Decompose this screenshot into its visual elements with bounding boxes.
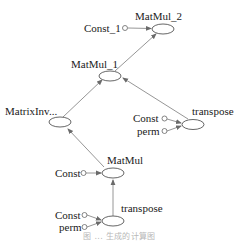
node-transpose-bottom[interactable] — [102, 216, 124, 226]
label-transpose-top: transpose — [192, 105, 234, 117]
computation-graph — [0, 0, 239, 245]
edge-matmul-matrixinv — [68, 129, 104, 167]
label-matmul-2: MatMul_2 — [135, 10, 182, 22]
label-matmul-1: MatMul_1 — [71, 58, 118, 70]
node-matmul[interactable] — [102, 168, 124, 178]
node-perm-bottom[interactable] — [82, 225, 87, 230]
node-const-top[interactable] — [162, 116, 167, 121]
node-matmul-2[interactable] — [152, 24, 174, 34]
label-transpose-bottom: transpose — [121, 202, 163, 214]
node-const-bottom[interactable] — [82, 213, 87, 218]
edge-matrixinv-matmul1 — [63, 80, 102, 117]
label-matrixinv: MatrixInv... — [5, 105, 57, 117]
node-const-mid[interactable] — [81, 171, 86, 176]
edge-consttop-transposetop — [167, 119, 181, 123]
node-matrixinv[interactable] — [49, 117, 71, 127]
label-perm-top: perm — [137, 125, 160, 137]
node-perm-top[interactable] — [162, 129, 167, 134]
node-matmul-1[interactable] — [99, 71, 121, 81]
label-matmul: MatMul — [107, 154, 143, 166]
label-const-top: Const — [133, 112, 159, 124]
label-const-mid: Const — [55, 167, 81, 179]
figure-caption: 图 ... 生成的计算图 — [0, 232, 239, 242]
node-transpose-top[interactable] — [182, 120, 204, 130]
edge-constbottom-transposebottom — [87, 215, 101, 220]
label-const-1: Const_1 — [84, 22, 121, 34]
edge-matmul1-matmul2 — [115, 34, 156, 71]
edge-permbottom-transposebottom — [87, 222, 101, 227]
node-const-1[interactable] — [123, 26, 128, 31]
edge-const1-matmul2 — [128, 28, 151, 29]
label-const-bottom: Const — [55, 209, 81, 221]
edge-permtop-transposetop — [167, 126, 181, 131]
